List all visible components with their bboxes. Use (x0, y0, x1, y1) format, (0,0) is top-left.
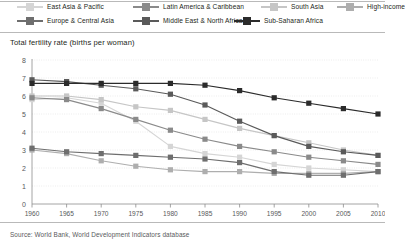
x-tick-label: 1985 (198, 210, 213, 217)
series-marker (202, 137, 207, 142)
legend-label: High-income (367, 3, 405, 11)
series-marker (375, 169, 380, 174)
series-marker (306, 155, 311, 160)
source-note: Source: World Bank, World Development In… (10, 231, 190, 238)
x-tick-label: 1980 (163, 210, 178, 217)
series-marker (99, 106, 104, 111)
series-marker (168, 108, 173, 113)
series-marker (341, 106, 346, 111)
series-marker (306, 101, 311, 106)
series-marker (133, 164, 138, 169)
y-tick-label: 3 (22, 147, 26, 154)
series-marker (341, 158, 346, 163)
legend-label: East Asia & Pacific (47, 3, 104, 11)
series-marker (133, 86, 138, 91)
chart-series (29, 81, 380, 117)
series-marker (272, 169, 277, 174)
legend-item[interactable]: East Asia & Pacific (17, 3, 104, 11)
series-marker (133, 117, 138, 122)
series-marker (202, 151, 207, 156)
legend-label: Latin America & Caribbean (163, 3, 244, 11)
x-tick-label: 1960 (25, 210, 40, 217)
series-marker (306, 144, 311, 149)
series-marker (237, 155, 242, 160)
y-tick-label: 7 (22, 75, 26, 82)
x-tick-label: 1965 (59, 210, 74, 217)
legend-label: Sub-Saharan Africa (264, 17, 323, 25)
series-marker (272, 95, 277, 100)
legend-item[interactable]: High-income (337, 3, 405, 11)
series-marker (133, 104, 138, 109)
series-marker (64, 149, 69, 154)
series-marker (375, 162, 380, 167)
series-marker (99, 158, 104, 163)
x-tick-label: 2005 (336, 210, 351, 217)
series-marker (168, 92, 173, 97)
legend-marker-icon (133, 20, 159, 22)
series-marker (237, 160, 242, 165)
x-tick-label: 2010 (371, 210, 385, 217)
series-marker (99, 97, 104, 102)
bottom-divider (0, 222, 385, 223)
series-marker (202, 169, 207, 174)
series-marker (168, 81, 173, 86)
x-tick-label: 2000 (301, 210, 316, 217)
series-marker (29, 81, 34, 86)
series-marker (237, 119, 242, 124)
series-marker (306, 165, 311, 170)
y-tick-label: 8 (22, 57, 26, 64)
series-marker (237, 169, 242, 174)
series-marker (237, 144, 242, 149)
series-marker (272, 133, 277, 138)
legend-label: Middle East & North Africa (163, 17, 243, 25)
series-marker (202, 102, 207, 107)
series-line (32, 83, 378, 114)
series-marker (272, 149, 277, 154)
legend-item[interactable]: Sub-Saharan Africa (234, 17, 323, 25)
x-tick-label: 1975 (128, 210, 143, 217)
series-marker (99, 81, 104, 86)
legend-marker-icon (261, 6, 287, 8)
y-tick-label: 2 (22, 165, 26, 172)
legend-divider (0, 32, 385, 33)
series-marker (168, 128, 173, 133)
series-marker (168, 155, 173, 160)
series-marker (375, 153, 380, 158)
legend-marker-icon (133, 6, 159, 8)
x-tick-label: 1990 (232, 210, 247, 217)
series-marker (341, 149, 346, 154)
series-marker (133, 81, 138, 86)
chart-legend: East Asia & PacificLatin America & Carib… (17, 3, 377, 31)
legend-marker-icon (337, 6, 363, 8)
y-tick-label: 4 (22, 129, 26, 136)
series-marker (202, 117, 207, 122)
series-marker (29, 146, 34, 151)
series-marker (375, 111, 380, 116)
series-marker (202, 156, 207, 161)
chart-axis-title: Total fertility rate (births per woman) (10, 38, 135, 47)
series-marker (237, 126, 242, 131)
series-marker (272, 162, 277, 167)
series-marker (64, 81, 69, 86)
top-divider (0, 1, 385, 2)
legend-item[interactable]: Europe & Central Asia (17, 17, 114, 25)
legend-item[interactable]: Latin America & Caribbean (133, 3, 244, 11)
chart-plot-area: 0123456781960196519701975198019851990199… (0, 52, 385, 217)
fertility-line-chart: 0123456781960196519701975198019851990199… (0, 52, 385, 217)
series-marker (306, 173, 311, 178)
y-tick-label: 5 (22, 111, 26, 118)
series-marker (237, 88, 242, 93)
series-marker (202, 83, 207, 88)
series-marker (133, 153, 138, 158)
legend-label: Europe & Central Asia (47, 17, 114, 25)
legend-label: South Asia (291, 3, 324, 11)
legend-item[interactable]: Middle East & North Africa (133, 17, 243, 25)
y-tick-label: 1 (22, 183, 26, 190)
series-marker (168, 167, 173, 172)
legend-item[interactable]: South Asia (261, 3, 324, 11)
legend-marker-icon (17, 20, 43, 22)
x-tick-label: 1970 (94, 210, 109, 217)
series-marker (29, 95, 34, 100)
y-tick-label: 6 (22, 93, 26, 100)
legend-marker-icon (234, 20, 260, 22)
